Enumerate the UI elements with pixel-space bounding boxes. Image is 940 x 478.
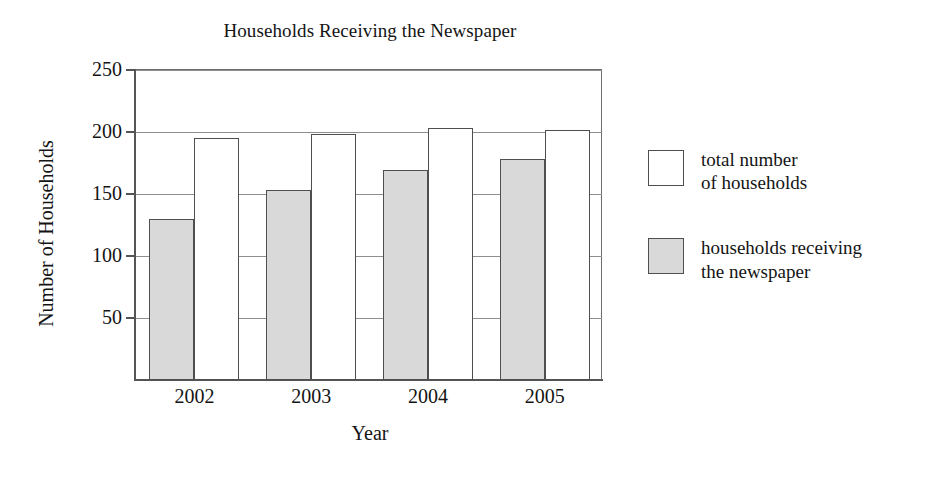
bar-2004-receiving xyxy=(383,170,428,380)
legend-label-line: households receiving xyxy=(701,236,862,259)
bar-2002-receiving xyxy=(149,219,194,380)
y-tick-label: 100 xyxy=(92,244,122,267)
y-tick-100 xyxy=(126,255,136,257)
legend-label: households receivingthe newspaper xyxy=(701,236,862,282)
chart-title: Households Receiving the Newspaper xyxy=(135,20,605,42)
chart-legend: total numberof householdshouseholds rece… xyxy=(648,148,933,325)
bar-2004-total xyxy=(428,128,473,380)
legend-label-line: the newspaper xyxy=(701,260,862,283)
bar-2005-receiving xyxy=(500,159,545,380)
legend-swatch-shaded xyxy=(648,238,684,274)
bar-2003-receiving xyxy=(266,190,311,380)
bar-2002-total xyxy=(194,138,239,380)
gridline-250 xyxy=(135,70,602,71)
plot-area: 50100150200250 2002200320042005 xyxy=(135,70,602,380)
gridline-200 xyxy=(135,132,602,133)
y-tick-label: 200 xyxy=(92,120,122,143)
x-tick-label: 2005 xyxy=(525,385,565,408)
x-tick-label: 2003 xyxy=(291,385,331,408)
bar-2003-total xyxy=(311,134,356,380)
x-axis-title: Year xyxy=(135,422,605,445)
legend-item: households receivingthe newspaper xyxy=(648,236,933,282)
legend-label: total numberof households xyxy=(701,148,807,194)
y-tick-label: 50 xyxy=(102,306,122,329)
y-tick-200 xyxy=(126,131,136,133)
y-tick-label: 150 xyxy=(92,182,122,205)
x-tick-label: 2002 xyxy=(174,385,214,408)
y-tick-150 xyxy=(126,193,136,195)
legend-item: total numberof households xyxy=(648,148,933,194)
legend-label-line: total number xyxy=(701,148,807,171)
y-axis-line xyxy=(134,69,136,381)
legend-swatch-open xyxy=(648,150,684,186)
bar-2005-total xyxy=(545,130,590,380)
y-tick-label: 250 xyxy=(92,58,122,81)
bar-chart-figure: Households Receiving the Newspaper Numbe… xyxy=(0,0,940,478)
y-axis-title: Number of Households xyxy=(35,104,58,364)
plot-frame-right xyxy=(601,69,602,380)
y-tick-250 xyxy=(126,69,136,71)
y-tick-50 xyxy=(126,317,136,319)
legend-label-line: of households xyxy=(701,171,807,194)
x-tick-label: 2004 xyxy=(408,385,448,408)
